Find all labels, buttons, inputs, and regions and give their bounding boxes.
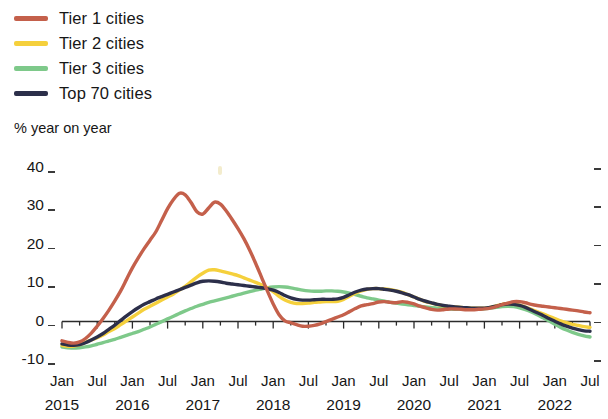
x-axis-month-label: Jan [253,372,293,389]
y-axis-label: 20 [4,235,44,253]
x-axis-month-label: Jul [148,372,188,389]
x-axis-month-label: Jan [112,372,152,389]
y-axis-tick [48,363,55,365]
y-axis-label: -10 [4,350,44,368]
x-axis-month-label: Jul [288,372,328,389]
y-axis-tick [48,209,55,211]
x-axis-year-label: 2018 [245,396,301,414]
x-axis-year-label: 2020 [386,396,442,414]
x-axis-year-label: 2017 [175,396,231,414]
y-axis-tick-right [594,245,601,247]
x-axis-month-label: Jan [394,372,434,389]
y-axis-tick-right [594,283,601,285]
x-axis-year-label: 2016 [104,396,160,414]
y-axis-label: 10 [4,273,44,291]
x-axis-month-label: Jan [183,372,223,389]
y-axis-tick-right [594,168,601,170]
y-axis-label: 40 [4,158,44,176]
x-axis-month-label: Jul [77,372,117,389]
x-axis-month-label: Jul [570,372,608,389]
x-axis-month-label: Jul [500,372,540,389]
y-axis-tick [48,248,55,250]
y-axis-tick [48,325,55,327]
x-axis-month-label: Jul [218,372,258,389]
x-axis-month-label: Jan [464,372,504,389]
y-axis-tick-right [594,360,601,362]
x-axis-month-label: Jul [359,372,399,389]
y-axis-tick [48,286,55,288]
x-axis-month-label: Jan [42,372,82,389]
y-axis-tick [48,171,55,173]
series-line-tier-3-cities [62,287,590,348]
x-axis-month-label: Jul [429,372,469,389]
x-axis-month-label: Jan [324,372,364,389]
y-axis-tick-right [594,322,601,324]
x-axis-month-label: Jan [535,372,575,389]
x-axis-year-label: 2019 [316,396,372,414]
series-line-tier-1-cities [62,193,590,343]
x-axis-year-label: 2022 [527,396,583,414]
y-axis-label: 30 [4,196,44,214]
chart-container: Tier 1 citiesTier 2 citiesTier 3 citiesT… [0,0,608,419]
x-axis-year-label: 2015 [34,396,90,414]
y-axis-label: 0 [4,312,44,330]
line-plot [0,0,608,419]
x-axis-year-label: 2021 [456,396,512,414]
y-axis-tick-right [594,206,601,208]
